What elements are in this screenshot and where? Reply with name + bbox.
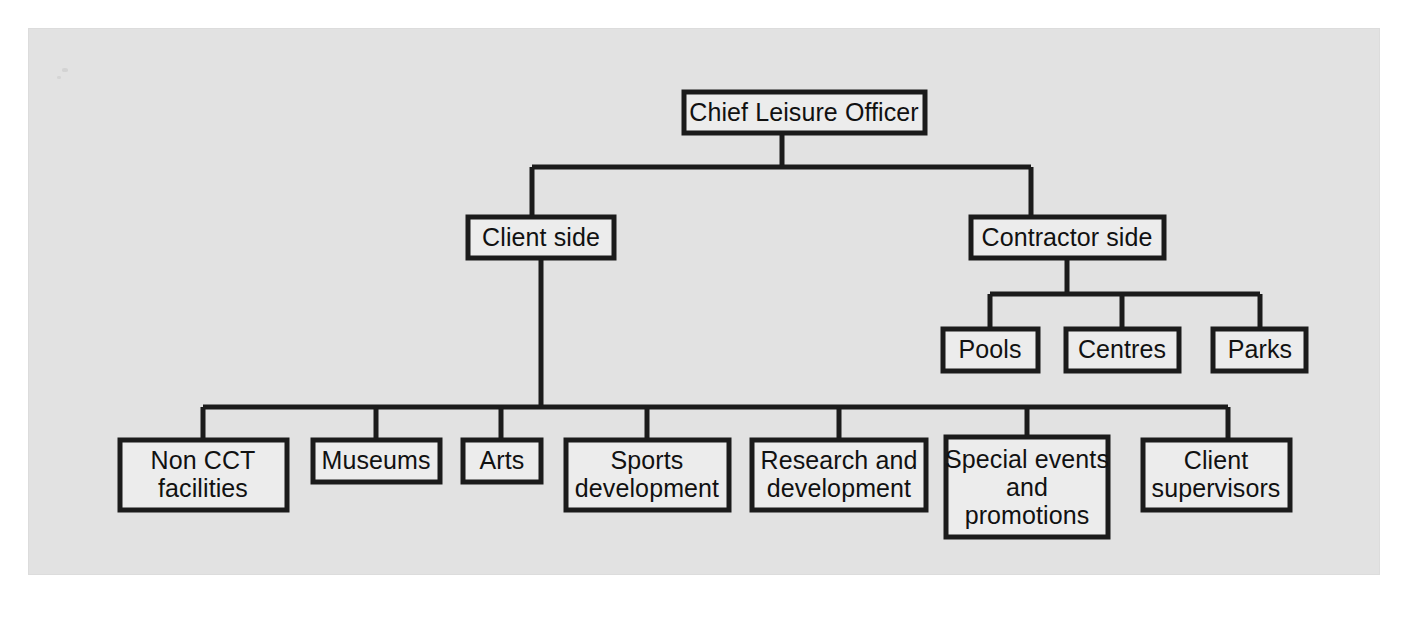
node-arts[interactable]: Arts [463, 440, 541, 482]
node-label: Centres [1078, 335, 1166, 363]
node-label-line-2: facilities [158, 474, 248, 502]
node-label: Client side [482, 223, 600, 251]
node-chief-leisure-officer[interactable]: Chief Leisure Officer [684, 92, 925, 133]
org-chart: Chief Leisure Officer Client side Contra… [0, 0, 1410, 621]
node-label: Pools [958, 335, 1021, 363]
node-label-line-2: and [1006, 473, 1048, 501]
node-label-line-1: Special events [945, 445, 1109, 473]
node-label-line-1: Sports [611, 446, 684, 474]
node-label-line-2: development [767, 474, 911, 502]
node-label: Chief Leisure Officer [689, 98, 919, 126]
node-label-line-2: supervisors [1152, 474, 1281, 502]
node-non-cct-facilities[interactable]: Non CCT facilities [120, 440, 287, 510]
node-label-line-3: promotions [965, 501, 1090, 529]
node-label: Parks [1228, 335, 1292, 363]
node-special-events-and-promotions[interactable]: Special events and promotions [945, 437, 1109, 537]
node-label-line-1: Non CCT [151, 446, 256, 474]
node-parks[interactable]: Parks [1213, 329, 1306, 371]
node-label-line-2: development [575, 474, 719, 502]
connectors [203, 133, 1260, 440]
node-label: Arts [480, 446, 525, 474]
node-museums[interactable]: Museums [313, 440, 440, 482]
node-client-supervisors[interactable]: Client supervisors [1143, 440, 1290, 510]
node-label-line-1: Client [1184, 446, 1249, 474]
node-contractor-side[interactable]: Contractor side [971, 217, 1164, 258]
node-sports-development[interactable]: Sports development [566, 440, 729, 510]
node-client-side[interactable]: Client side [468, 217, 614, 258]
node-label: Contractor side [981, 223, 1152, 251]
node-label-line-1: Research and [761, 446, 918, 474]
node-label: Museums [321, 446, 430, 474]
node-centres[interactable]: Centres [1066, 329, 1179, 371]
node-research-and-development[interactable]: Research and development [752, 440, 926, 510]
diagram-canvas: Chief Leisure Officer Client side Contra… [0, 0, 1410, 621]
node-pools[interactable]: Pools [943, 329, 1038, 371]
